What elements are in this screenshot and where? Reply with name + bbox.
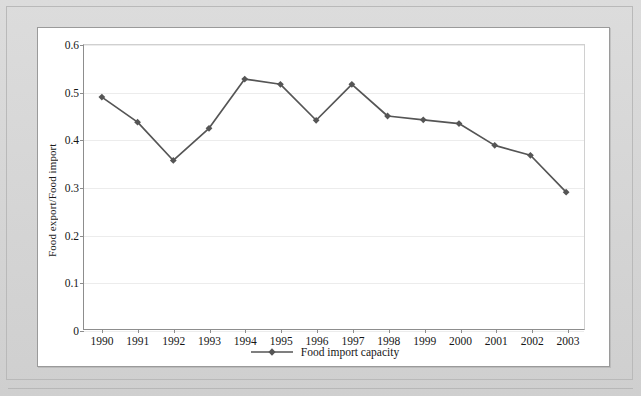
data-series-svg — [84, 45, 584, 329]
y-axis-tick-mark — [80, 331, 84, 332]
y-axis-tick-label: 0.5 — [65, 87, 79, 99]
data-point-marker — [420, 116, 427, 123]
x-axis-tick-mark — [389, 329, 390, 333]
page-background: Food export/Food import 00.10.20.30.40.5… — [0, 0, 641, 396]
y-axis-tick-label: 0.2 — [65, 230, 79, 242]
y-axis-tick-label: 0.1 — [65, 277, 79, 289]
x-axis-tick-mark — [245, 329, 246, 333]
y-axis-tick-label: 0.4 — [65, 134, 79, 146]
x-axis-tick-mark — [568, 329, 569, 333]
y-axis-tick-label: 0.3 — [65, 182, 79, 194]
x-axis-tick-mark — [281, 329, 282, 333]
x-axis-tick-mark — [353, 329, 354, 333]
x-axis-tick-mark — [532, 329, 533, 333]
legend-marker-icon — [250, 346, 294, 358]
x-axis-tick-mark — [102, 329, 103, 333]
x-axis-tick-mark — [425, 329, 426, 333]
plot-area: 00.10.20.30.40.50.6 19901991199219931994… — [83, 44, 585, 330]
x-axis-tick-mark — [138, 329, 139, 333]
figure-container: Food export/Food import 00.10.20.30.40.5… — [37, 27, 610, 367]
y-axis-title: Food export/Food import — [44, 90, 60, 310]
plot-wrapper: Food export/Food import 00.10.20.30.40.5… — [38, 28, 611, 368]
chart-legend: Food import capacity — [38, 346, 611, 358]
gridline — [84, 331, 584, 332]
series-line — [102, 79, 566, 192]
x-axis-tick-mark — [461, 329, 462, 333]
x-axis-tick-mark — [210, 329, 211, 333]
y-axis-tick-label: 0 — [73, 325, 79, 337]
x-axis-tick-mark — [317, 329, 318, 333]
legend-entry-label: Food import capacity — [301, 346, 399, 358]
x-axis-tick-mark — [174, 329, 175, 333]
y-axis-tick-label: 0.6 — [65, 39, 79, 51]
x-axis-tick-mark — [496, 329, 497, 333]
scan-artifact-line — [8, 388, 633, 389]
